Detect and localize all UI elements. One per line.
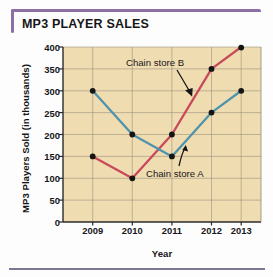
y-tick-label: 250	[32, 107, 60, 118]
data-point	[169, 154, 175, 160]
data-point	[209, 110, 215, 116]
x-tick-label: 2013	[221, 225, 261, 236]
data-point	[90, 88, 96, 94]
data-point	[238, 88, 244, 94]
y-tick-label: 350	[32, 63, 60, 74]
chart-figure: MP3 PLAYER SALES	[0, 0, 273, 277]
x-tick-label: 2009	[73, 225, 113, 236]
y-tick-label: 300	[32, 85, 60, 96]
y-tick-label: 150	[32, 151, 60, 162]
data-point	[129, 175, 135, 181]
data-point	[238, 45, 244, 51]
x-tick-label: 2011	[152, 225, 192, 236]
series-annotation-chain-store-a: Chain store A	[146, 168, 204, 179]
y-tick-label: 50	[32, 195, 60, 206]
x-tick-label: 2010	[112, 225, 152, 236]
data-point	[169, 132, 175, 138]
y-tick-label: 100	[32, 173, 60, 184]
data-point	[90, 154, 96, 160]
y-tick-label-group: 0 50 100 150 200 250 300 350 400	[28, 0, 60, 277]
bottom-rule	[9, 268, 265, 270]
y-tick-label: 400	[32, 42, 60, 53]
x-axis-title: Year	[63, 248, 261, 259]
series-annotation-chain-store-b: Chain store B	[126, 57, 184, 68]
y-axis-title: MP3 Players Sold (in thousands)	[20, 51, 31, 227]
y-tick-label: 200	[32, 129, 60, 140]
data-point	[209, 66, 215, 72]
data-point	[129, 132, 135, 138]
y-tick-label: 0	[32, 217, 60, 228]
